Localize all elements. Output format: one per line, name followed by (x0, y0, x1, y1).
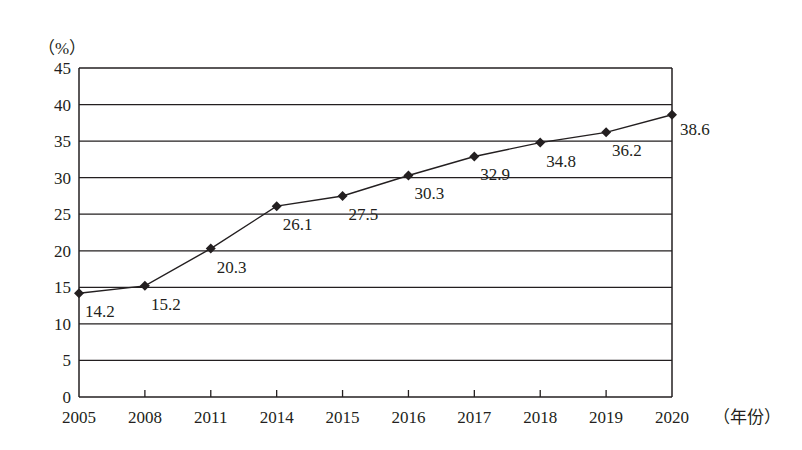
data-label: 30.3 (414, 184, 444, 203)
diamond-marker-icon (469, 151, 479, 161)
data-labels: 14.215.220.326.127.530.332.934.836.238.6 (85, 120, 710, 321)
diamond-marker-icon (140, 281, 150, 291)
x-tick-label: 2019 (589, 408, 623, 427)
data-label: 38.6 (680, 120, 710, 139)
axes (79, 68, 672, 397)
data-label: 34.8 (546, 152, 576, 171)
x-axis-tick-labels: 2005200820112014201520162017201820192020 (62, 408, 689, 427)
x-tick-label: 2018 (523, 408, 557, 427)
diamond-marker-icon (667, 110, 677, 120)
diamond-marker-icon (403, 170, 413, 180)
x-tick-label: 2016 (391, 408, 425, 427)
data-label: 15.2 (151, 295, 181, 314)
x-axis-unit-label: （年份） (713, 408, 781, 427)
diamond-marker-icon (206, 244, 216, 254)
y-tick-label: 45 (54, 59, 71, 78)
y-tick-label: 5 (63, 351, 72, 370)
data-label: 20.3 (217, 258, 247, 277)
y-tick-label: 0 (63, 388, 72, 407)
diamond-marker-icon (601, 127, 611, 137)
diamond-marker-icon (338, 191, 348, 201)
x-tick-label: 2015 (326, 408, 360, 427)
y-tick-label: 20 (54, 242, 71, 261)
y-tick-label: 30 (54, 169, 71, 188)
y-axis-unit-label: （%） (38, 39, 86, 58)
y-tick-label: 25 (54, 205, 71, 224)
x-tick-label: 2008 (128, 408, 162, 427)
data-label: 32.9 (480, 165, 510, 184)
y-tick-label: 10 (54, 315, 71, 334)
x-tick-label: 2005 (62, 408, 96, 427)
diamond-marker-icon (74, 288, 84, 298)
data-label: 14.2 (85, 302, 115, 321)
y-tick-label: 15 (54, 278, 71, 297)
diamond-marker-icon (272, 201, 282, 211)
x-tick-label: 2017 (457, 408, 492, 427)
y-tick-label: 40 (54, 96, 71, 115)
y-tick-label: 35 (54, 132, 71, 151)
data-label: 26.1 (283, 215, 313, 234)
line-chart: 051015202530354045 200520082011201420152… (0, 0, 802, 450)
data-label: 36.2 (612, 141, 642, 160)
x-tick-label: 2014 (260, 408, 295, 427)
diamond-marker-icon (535, 138, 545, 148)
y-axis-tick-labels: 051015202530354045 (54, 59, 71, 407)
x-tick-label: 2020 (655, 408, 689, 427)
data-label: 27.5 (349, 205, 379, 224)
x-tick-label: 2011 (194, 408, 227, 427)
